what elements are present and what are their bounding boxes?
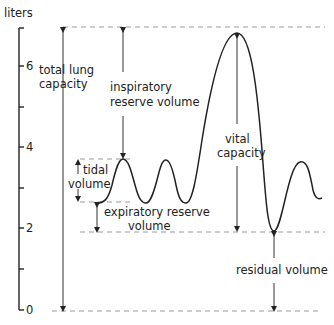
vital-capacity-label: vital capacity bbox=[217, 132, 266, 160]
expiratory-reserve-volume-label: expiratory reserve volume bbox=[104, 205, 210, 233]
inspiratory-reserve-volume-label: inspiratory reserve volume bbox=[110, 80, 199, 109]
y-axis: liters 6 4 2 0 bbox=[4, 6, 33, 317]
axis-unit-label: liters bbox=[4, 6, 33, 20]
residual-volume-label: residual volume bbox=[236, 263, 328, 277]
svg-text:volume: volume bbox=[128, 219, 171, 233]
svg-text:total lung: total lung bbox=[39, 63, 94, 77]
svg-text:vital: vital bbox=[225, 132, 250, 146]
tick-label-4: 4 bbox=[26, 140, 33, 154]
svg-text:capacity: capacity bbox=[217, 146, 266, 160]
tick-label-6: 6 bbox=[26, 59, 33, 73]
total-lung-capacity-label: total lung capacity bbox=[39, 63, 94, 91]
svg-text:capacity: capacity bbox=[39, 77, 88, 91]
svg-text:reserve volume: reserve volume bbox=[110, 95, 199, 109]
lung-volume-diagram: liters 6 4 2 0 total lung capacity bbox=[0, 0, 334, 325]
svg-text:volume: volume bbox=[68, 177, 111, 191]
tick-label-2: 2 bbox=[26, 221, 33, 235]
svg-text:inspiratory: inspiratory bbox=[110, 80, 172, 94]
tick-label-0: 0 bbox=[26, 303, 33, 317]
svg-text:residual volume: residual volume bbox=[236, 263, 328, 277]
svg-text:tidal: tidal bbox=[83, 163, 108, 177]
breathing-curve bbox=[97, 33, 322, 231]
tidal-volume-label: tidal volume bbox=[68, 163, 111, 191]
svg-text:expiratory reserve: expiratory reserve bbox=[104, 205, 210, 219]
